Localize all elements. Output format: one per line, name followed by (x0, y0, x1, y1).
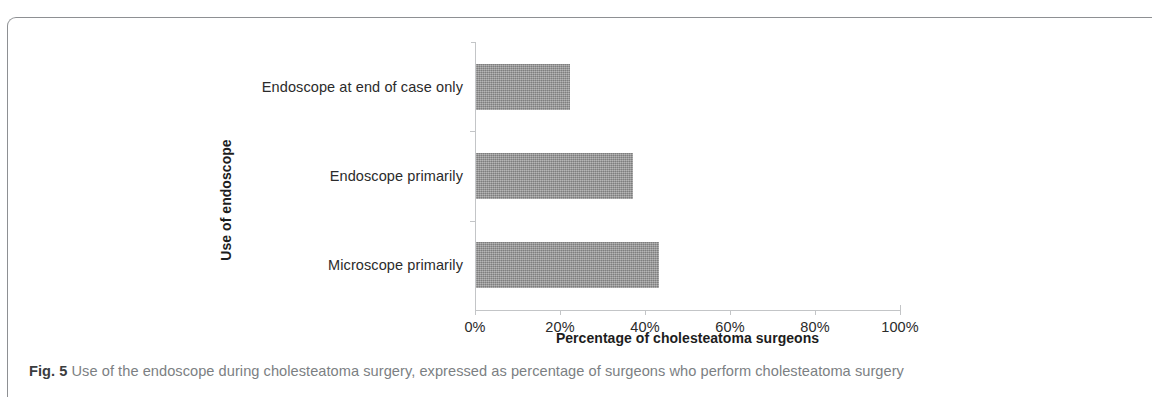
x-tick (730, 310, 731, 315)
x-tick (815, 310, 816, 315)
figure-caption: Fig. 5 Use of the endoscope during chole… (29, 363, 1129, 379)
category-label-text: Endoscope primarily (330, 168, 469, 184)
plot-area: Endoscope at end of case onlyEndoscope p… (475, 42, 900, 310)
bar-chart: Use of endoscope Endoscope at end of cas… (0, 0, 1152, 352)
x-axis-line (475, 310, 901, 311)
x-tick (900, 310, 901, 315)
bar-rect (476, 64, 570, 110)
figure-number: Fig. 5 (29, 363, 67, 379)
bar-2 (476, 131, 633, 220)
bar-rect (476, 153, 633, 199)
figure-caption-text: Use of the endoscope during cholesteatom… (67, 363, 903, 379)
x-tick (560, 310, 561, 315)
bar-3 (476, 221, 659, 310)
x-tick (645, 310, 646, 315)
bar-1 (476, 42, 570, 131)
x-tick (475, 310, 476, 315)
y-tick (470, 131, 475, 132)
y-axis-title: Use of endoscope (218, 110, 234, 290)
bar-rect (476, 242, 659, 288)
category-label-text: Endoscope at end of case only (262, 79, 469, 95)
x-axis-title: Percentage of cholesteatoma surgeons (475, 330, 900, 346)
y-tick (470, 221, 475, 222)
category-label-text: Microscope primarily (328, 257, 469, 273)
